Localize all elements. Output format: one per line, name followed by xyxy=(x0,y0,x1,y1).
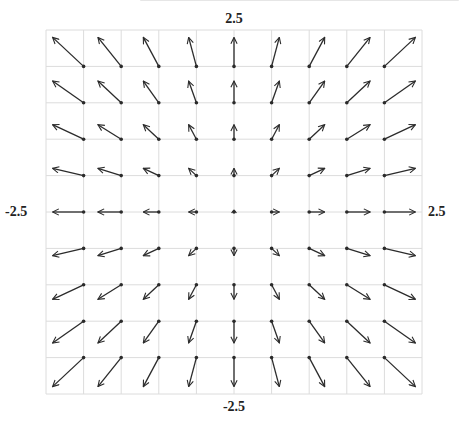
base-point-dot xyxy=(157,210,161,214)
arrow-shaft xyxy=(272,81,280,103)
arrow-shaft xyxy=(309,81,325,103)
base-point-dot xyxy=(383,101,387,105)
arrow-shaft xyxy=(347,285,370,300)
base-point-dot xyxy=(307,137,311,141)
base-point-dot xyxy=(157,356,161,360)
base-point-dot xyxy=(119,174,123,178)
vector-arrow xyxy=(189,210,199,214)
base-point-dot xyxy=(119,137,123,141)
arrow-shaft xyxy=(384,248,415,255)
vector-arrow xyxy=(143,283,160,299)
vector-arrow xyxy=(383,283,416,299)
arrow-shaft xyxy=(53,81,84,103)
arrow-shaft xyxy=(347,168,370,175)
vector-arrow xyxy=(307,210,324,214)
base-point-dot xyxy=(119,356,123,360)
vector-arrow xyxy=(232,81,236,105)
vector-arrow xyxy=(345,356,370,387)
arrow-shaft xyxy=(309,248,325,255)
vector-arrow xyxy=(53,125,86,141)
vector-arrow xyxy=(383,125,416,141)
base-point-dot xyxy=(157,101,161,105)
base-point-dot xyxy=(232,210,236,214)
base-point-dot xyxy=(82,319,86,323)
arrow-shaft xyxy=(143,81,159,103)
vector-arrow xyxy=(307,81,324,105)
base-point-dot xyxy=(232,356,236,360)
arrow-shaft xyxy=(309,168,325,175)
base-point-dot xyxy=(383,283,387,287)
vector-arrow xyxy=(143,125,160,141)
base-point-dot xyxy=(270,283,274,287)
vector-arrow xyxy=(232,125,236,141)
arrow-shaft xyxy=(272,321,280,343)
vector-arrow xyxy=(98,81,123,105)
arrow-shaft xyxy=(384,358,415,387)
base-point-dot xyxy=(119,247,123,251)
base-point-dot xyxy=(232,174,236,178)
arrow-shaft xyxy=(272,37,280,66)
base-point-dot xyxy=(345,65,349,69)
arrow-shaft xyxy=(347,358,370,387)
arrow-shaft xyxy=(98,321,121,343)
vector-arrow xyxy=(383,356,416,387)
arrow-shaft xyxy=(53,125,84,140)
base-point-dot xyxy=(307,65,311,69)
base-point-dot xyxy=(307,101,311,105)
base-point-dot xyxy=(119,101,123,105)
vector-arrow xyxy=(53,81,86,105)
vector-arrow xyxy=(232,247,236,256)
vector-arrow xyxy=(53,37,86,68)
vector-arrow xyxy=(232,168,236,177)
arrow-shaft xyxy=(347,125,370,140)
arrow-shaft xyxy=(189,81,197,103)
vector-arrow xyxy=(345,125,370,141)
arrow-shaft xyxy=(309,285,325,300)
base-point-dot xyxy=(345,137,349,141)
base-point-dot xyxy=(307,283,311,287)
vector-arrow xyxy=(232,319,236,343)
arrow-shaft xyxy=(143,37,159,66)
vector-arrow xyxy=(53,210,86,214)
base-point-dot xyxy=(157,283,161,287)
arrow-shaft xyxy=(309,358,325,387)
vector-field-plot xyxy=(0,0,459,426)
arrow-shaft xyxy=(384,285,415,300)
base-point-dot xyxy=(195,283,199,287)
base-point-dot xyxy=(383,210,387,214)
base-point-dot xyxy=(307,210,311,214)
arrow-shaft xyxy=(98,125,121,140)
vector-arrow xyxy=(307,125,324,141)
base-point-dot xyxy=(119,65,123,69)
base-point-dot xyxy=(345,283,349,287)
arrow-shaft xyxy=(98,285,121,300)
arrow-shaft xyxy=(53,168,84,175)
base-point-dot xyxy=(195,356,199,360)
base-point-dot xyxy=(307,174,311,178)
arrow-shaft xyxy=(272,285,280,300)
vector-arrow xyxy=(307,319,324,343)
base-point-dot xyxy=(232,283,236,287)
arrow-shaft xyxy=(53,248,84,255)
base-point-dot xyxy=(82,283,86,287)
arrow-shaft xyxy=(384,321,415,343)
base-point-dot xyxy=(82,101,86,105)
base-point-dot xyxy=(345,356,349,360)
vector-arrow xyxy=(345,81,370,105)
base-point-dot xyxy=(157,247,161,251)
vector-arrow xyxy=(53,319,86,343)
arrow-shaft xyxy=(53,321,84,343)
base-point-dot xyxy=(232,65,236,69)
arrow-shaft xyxy=(384,168,415,175)
vector-arrow xyxy=(143,37,160,68)
base-point-dot xyxy=(383,137,387,141)
vector-arrow xyxy=(53,356,86,387)
vector-arrow xyxy=(307,356,324,387)
base-point-dot xyxy=(232,137,236,141)
arrow-shaft xyxy=(143,285,159,300)
arrow-shaft xyxy=(309,125,325,140)
arrow-shaft xyxy=(143,168,159,175)
arrow-shaft xyxy=(384,81,415,103)
base-point-dot xyxy=(82,356,86,360)
base-point-dot xyxy=(157,319,161,323)
